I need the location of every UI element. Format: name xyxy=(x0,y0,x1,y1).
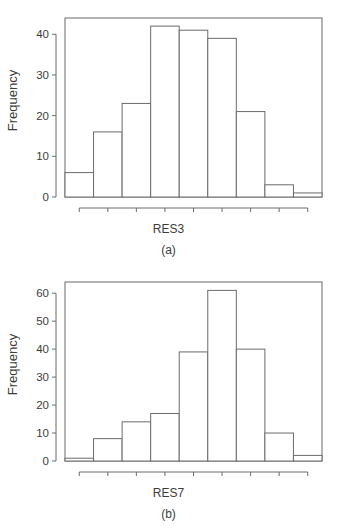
y-tick-label: 20 xyxy=(36,110,49,122)
y-tick-label: 40 xyxy=(36,28,49,40)
plot-area-b: Frequency 010203040506014001500160017001… xyxy=(0,264,337,478)
y-axis-label-a: Frequency xyxy=(0,0,26,200)
histogram-bar xyxy=(151,26,180,197)
y-tick-label: 30 xyxy=(36,371,49,383)
y-tick-label: 0 xyxy=(43,455,49,467)
histogram-bar xyxy=(293,193,322,197)
y-tick-label: 10 xyxy=(36,150,49,162)
y-tick-label: 50 xyxy=(36,315,49,327)
histogram-bar xyxy=(179,30,208,197)
y-axis-label-b: Frequency xyxy=(0,264,26,464)
y-tick-label: 30 xyxy=(36,69,49,81)
histogram-bar xyxy=(265,185,294,197)
y-tick-label: 20 xyxy=(36,399,49,411)
histogram-bar xyxy=(65,173,94,197)
histogram-bar xyxy=(122,422,151,461)
histogram-bar xyxy=(122,103,151,197)
histogram-bar xyxy=(179,352,208,461)
y-tick-label: 60 xyxy=(36,287,49,299)
y-tick-label: 0 xyxy=(43,191,49,203)
x-axis-label-b: RES7 xyxy=(0,486,337,500)
histogram-bar xyxy=(208,38,237,197)
panel-a: Frequency 010203040160017001800190020002… xyxy=(0,0,337,264)
histogram-bar xyxy=(94,132,123,197)
y-tick-label: 10 xyxy=(36,427,49,439)
histogram-bar xyxy=(236,112,265,197)
histogram-bar xyxy=(236,349,265,461)
histogram-bar xyxy=(208,290,237,461)
histogram-b: 0102030405060140015001600170018001900200… xyxy=(0,264,337,478)
x-axis-label-a: RES3 xyxy=(0,222,337,236)
histogram-bar xyxy=(151,413,180,461)
panel-caption-b: (b) xyxy=(0,507,337,521)
histogram-bar xyxy=(265,433,294,461)
plot-area-a: Frequency 010203040160017001800190020002… xyxy=(0,0,337,214)
panel-b: Frequency 010203040506014001500160017001… xyxy=(0,264,337,528)
histogram-bar xyxy=(293,455,322,461)
histogram-bar xyxy=(65,458,94,461)
histogram-a: 0102030401600170018001900200021002200230… xyxy=(0,0,337,214)
panel-caption-a: (a) xyxy=(0,243,337,257)
y-tick-label: 40 xyxy=(36,343,49,355)
histogram-bar xyxy=(94,439,123,461)
